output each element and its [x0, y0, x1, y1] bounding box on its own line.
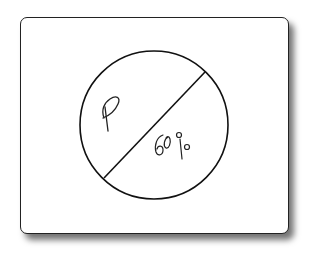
label-60-glyph [155, 133, 189, 160]
pie-diagram [0, 0, 320, 265]
diagram-canvas: P 60% [0, 0, 320, 265]
divider-line [104, 72, 205, 178]
label-p-glyph [103, 97, 119, 131]
